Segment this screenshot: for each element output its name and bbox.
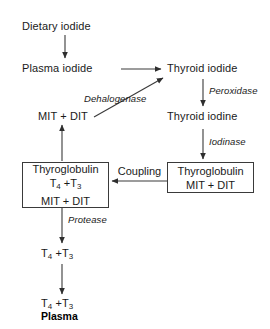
- node-thyroid-iodide: Thyroid iodide: [167, 62, 238, 74]
- node-mit-dit: MIT + DIT: [38, 110, 88, 122]
- box-left-line-2: T4 +T3: [50, 176, 82, 194]
- node-plasma-iodide: Plasma iodide: [22, 62, 92, 74]
- node-dietary-iodide: Dietary iodide: [22, 20, 91, 32]
- enzyme-label-peroxidase: Peroxidase: [209, 85, 258, 96]
- pathway-diagram: Dietary iodide Plasma iodide Thyroid iod…: [0, 0, 270, 329]
- box-left-line-3: MIT + DIT: [41, 194, 90, 208]
- node-thyroid-iodine: Thyroid iodine: [167, 110, 238, 122]
- enzyme-label-iodinase: Iodinase: [209, 136, 246, 147]
- enzyme-label-protease: Protease: [68, 214, 107, 225]
- box-thyroglobulin-mit-dit: Thyroglobulin MIT + DIT: [167, 162, 254, 193]
- box-right-line-2: MIT + DIT: [186, 178, 235, 192]
- node-t4-t3-mid: T4 +T3: [41, 247, 73, 263]
- box-thyroglobulin-t4-t3-mit-dit: Thyroglobulin T4 +T3 MIT + DIT: [22, 162, 109, 208]
- enzyme-label-dehalogenase: Dehalogenase: [84, 93, 146, 104]
- box-left-line-1: Thyroglobulin: [32, 162, 98, 176]
- node-plasma: Plasma: [41, 310, 78, 322]
- box-right-line-1: Thyroglobulin: [177, 164, 243, 178]
- enzyme-label-coupling: Coupling: [112, 165, 167, 177]
